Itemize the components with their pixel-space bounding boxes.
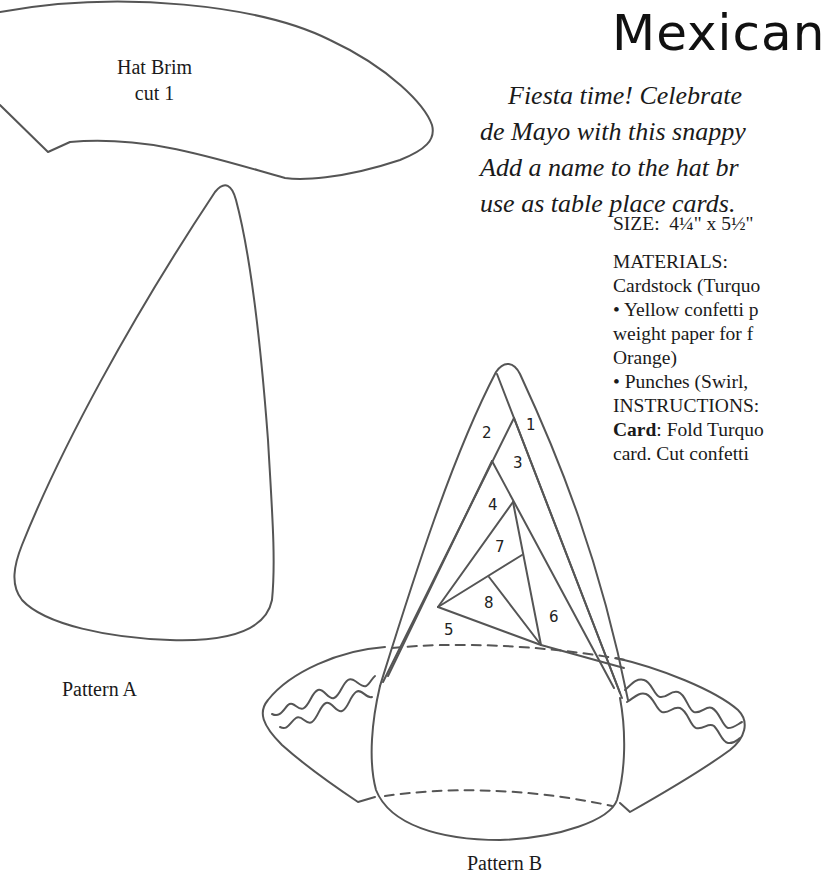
piece-number-2: 2 bbox=[482, 424, 492, 442]
piece-number-1: 1 bbox=[526, 416, 536, 434]
size-row: SIZE: 4¼" x 5½" bbox=[613, 212, 764, 236]
pattern-b-bottom-fold-line bbox=[385, 790, 612, 806]
hat-brim-label-line1: Hat Brim bbox=[117, 54, 192, 80]
instructions-line-1: Card: Fold Turquo bbox=[613, 418, 764, 442]
piece-number-3: 3 bbox=[513, 454, 523, 472]
pattern-b-left-wave-2 bbox=[280, 691, 372, 728]
instructions-line-1-text: : Fold Turquo bbox=[656, 419, 763, 440]
pattern-b-line-4 bbox=[388, 461, 492, 676]
pattern-b-cone-outline bbox=[380, 364, 628, 700]
pattern-b-line-5 bbox=[492, 461, 614, 688]
piece-number-8: 8 bbox=[484, 594, 494, 612]
intro-line-3: Add a name to the hat br bbox=[480, 150, 746, 186]
hat-brim-label: Hat Brim cut 1 bbox=[117, 54, 192, 106]
materials-line-5: • Punches (Swirl, bbox=[613, 370, 764, 394]
intro-line-2: de Mayo with this snappy bbox=[480, 114, 746, 150]
intro-line-1: Fiesta time! Celebrate bbox=[480, 78, 746, 114]
materials-line-4: Orange) bbox=[613, 346, 764, 370]
page-title: Mexican bbox=[612, 4, 825, 62]
piece-number-4: 4 bbox=[488, 496, 498, 514]
piece-number-6: 6 bbox=[549, 608, 559, 626]
size-value: 4¼" x 5½" bbox=[669, 213, 753, 234]
instructions-line-2: card. Cut confetti bbox=[613, 442, 764, 466]
instructions-label: INSTRUCTIONS: bbox=[613, 394, 764, 418]
pattern-b-left-brim bbox=[263, 647, 385, 802]
materials-label: MATERIALS: bbox=[613, 250, 764, 274]
piece-number-7: 7 bbox=[495, 538, 505, 556]
pattern-b-line-7 bbox=[513, 502, 541, 645]
details-block: SIZE: 4¼" x 5½" MATERIALS: Cardstock (Tu… bbox=[613, 212, 764, 466]
pattern-b-crown-outline bbox=[372, 686, 625, 840]
pattern-a-outline bbox=[14, 185, 273, 640]
piece-number-5: 5 bbox=[444, 621, 454, 639]
pattern-a-label: Pattern A bbox=[62, 678, 137, 701]
pattern-b-line-11 bbox=[541, 645, 624, 668]
materials-line-2: • Yellow confetti p bbox=[613, 298, 764, 322]
instructions-card-heading: Card bbox=[613, 419, 656, 440]
pattern-b-right-wave-1 bbox=[625, 680, 742, 728]
materials-line-3: weight paper for f bbox=[613, 322, 764, 346]
size-label: SIZE: bbox=[613, 213, 660, 234]
pattern-b-label: Pattern B bbox=[467, 852, 542, 874]
materials-line-1: Cardstock (Turquo bbox=[613, 274, 764, 298]
intro-text: Fiesta time! Celebrate de Mayo with this… bbox=[480, 78, 746, 222]
pattern-b-right-wave-2 bbox=[627, 694, 740, 744]
hat-brim-label-line2: cut 1 bbox=[117, 80, 192, 106]
pattern-b-line-8 bbox=[438, 555, 522, 607]
hat-brim-outline bbox=[0, 2, 433, 179]
